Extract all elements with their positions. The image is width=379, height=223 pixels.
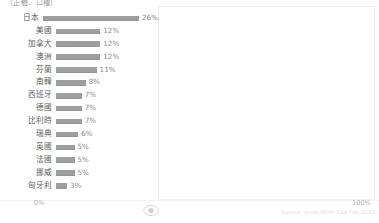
bar-value-label: 7%	[85, 102, 96, 115]
bar-category-label: 英國	[0, 141, 56, 154]
bar-fill[interactable]	[56, 29, 100, 35]
axis-gridline	[158, 6, 159, 200]
bar-track: 11%	[56, 64, 158, 77]
bar-fill[interactable]	[56, 183, 67, 189]
eye-logo-icon	[143, 205, 159, 216]
bar-row: 南韓8%	[0, 76, 158, 89]
bar-row: 芬蘭11%	[0, 64, 158, 77]
plot-area-frame	[158, 6, 375, 200]
bar-track: 7%	[56, 102, 158, 115]
bar-row: 日本26%	[0, 12, 158, 25]
bar-value-label: 7%	[85, 89, 96, 102]
bar-row: 挪威5%	[0, 167, 158, 180]
bar-fill[interactable]	[56, 170, 75, 176]
bar-fill[interactable]	[56, 54, 100, 60]
bar-fill[interactable]	[56, 106, 82, 112]
bar-value-label: 11%	[100, 64, 116, 77]
bar-category-label: 日本	[0, 12, 43, 25]
bar-fill[interactable]	[56, 132, 78, 138]
bar-row: 匈牙利3%	[0, 180, 158, 193]
bar-row: 美國12%	[0, 25, 158, 38]
bar-category-label: 比利時	[0, 115, 56, 128]
bar-category-label: 澳洲	[0, 51, 56, 64]
bar-fill[interactable]	[56, 41, 100, 47]
bar-value-label: 26%	[142, 12, 158, 25]
bar-row: 德國7%	[0, 102, 158, 115]
bar-fill[interactable]	[56, 93, 82, 99]
bar-value-label: 5%	[78, 141, 89, 154]
bar-row: 加拿大12%	[0, 38, 158, 51]
bar-category-label: 西班牙	[0, 89, 56, 102]
bar-track: 12%	[56, 51, 158, 64]
axis-tick-max: 100%	[352, 199, 371, 207]
bar-track: 3%	[56, 180, 158, 193]
bar-category-label: 南韓	[0, 76, 56, 89]
bar-track: 8%	[56, 76, 158, 89]
bar-value-label: 8%	[89, 76, 100, 89]
bar-fill[interactable]	[56, 119, 82, 125]
bar-category-label: 法國	[0, 154, 56, 167]
bar-value-label: 12%	[103, 25, 119, 38]
bar-track: 7%	[56, 115, 158, 128]
bar-row-list: 日本26%美國12%加拿大12%澳洲12%芬蘭11%南韓8%西班牙7%德國7%比…	[0, 12, 158, 192]
bar-category-label: 挪威	[0, 167, 56, 180]
bar-track: 7%	[56, 89, 158, 102]
bar-row: 法國5%	[0, 154, 158, 167]
bar-category-label: 加拿大	[0, 38, 56, 51]
axis-baseline	[0, 200, 379, 201]
bar-fill[interactable]	[56, 80, 86, 86]
bar-row: 澳洲12%	[0, 51, 158, 64]
bar-track: 6%	[56, 128, 158, 141]
bar-fill[interactable]	[56, 145, 75, 151]
bar-track: 26%	[43, 12, 158, 25]
bar-track: 5%	[56, 154, 158, 167]
bar-value-label: 6%	[81, 128, 92, 141]
bar-fill[interactable]	[43, 16, 139, 22]
bar-fill[interactable]	[56, 157, 75, 163]
bar-chart-panel: （正體．口種） 日本26%美國12%加拿大12%澳洲12%芬蘭11%南韓8%西班…	[0, 0, 379, 223]
bar-track: 12%	[56, 38, 158, 51]
bar-category-label: 芬蘭	[0, 64, 56, 77]
bar-value-label: 7%	[85, 115, 96, 128]
bar-row: 比利時7%	[0, 115, 158, 128]
bar-track: 5%	[56, 167, 158, 180]
bar-track: 12%	[56, 25, 158, 38]
bar-category-label: 德國	[0, 102, 56, 115]
bar-value-label: 5%	[78, 154, 89, 167]
bar-value-label: 12%	[103, 51, 119, 64]
source-attribution: Source: Ipsos MORI | 26 Feb 2021	[281, 209, 375, 215]
bar-fill[interactable]	[56, 67, 97, 73]
bar-category-label: 瑞典	[0, 128, 56, 141]
bar-value-label: 12%	[103, 38, 119, 51]
bar-category-label: 匈牙利	[0, 180, 56, 193]
bar-row: 瑞典6%	[0, 128, 158, 141]
bar-category-label: 美國	[0, 25, 56, 38]
bar-track: 5%	[56, 141, 158, 154]
axis-tick-min: 0%	[34, 199, 44, 207]
bar-value-label: 3%	[70, 180, 81, 193]
chart-caption: （正體．口種）	[6, 0, 58, 8]
bar-row: 英國5%	[0, 141, 158, 154]
bar-row: 西班牙7%	[0, 89, 158, 102]
bar-value-label: 5%	[78, 167, 89, 180]
